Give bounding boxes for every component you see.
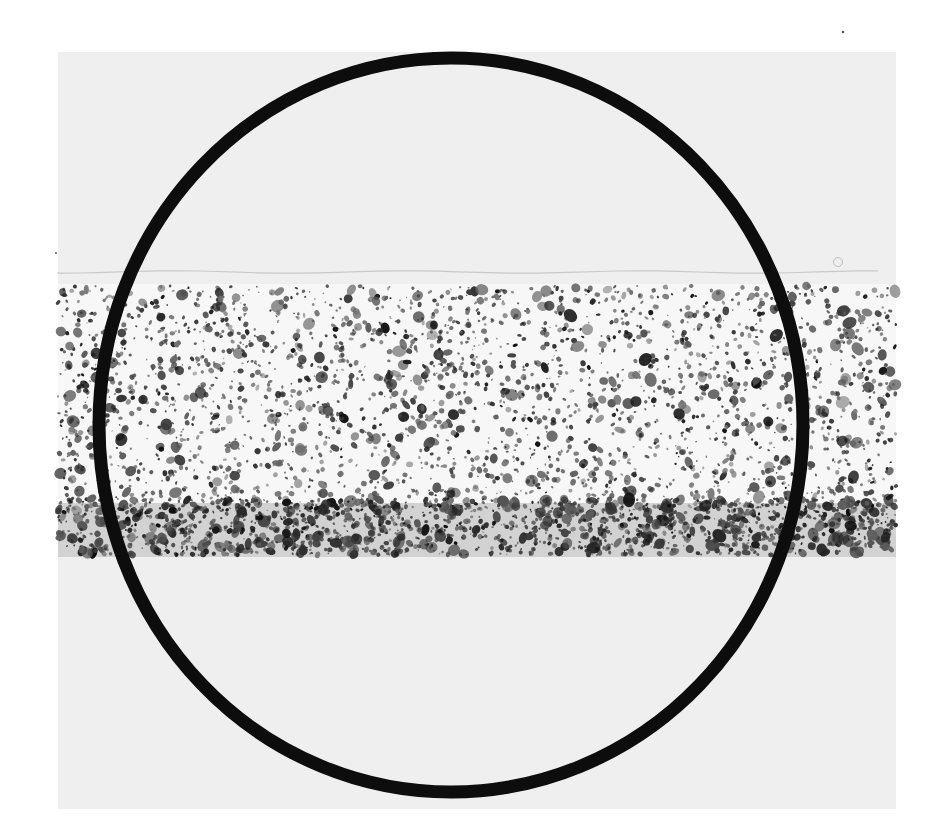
micrograph-figure: [0, 0, 944, 835]
micrograph-canvas: [0, 0, 944, 835]
